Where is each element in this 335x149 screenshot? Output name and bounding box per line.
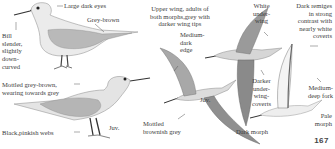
label-dark-morph: Dark morph (236, 128, 268, 136)
label-line: wing- (252, 92, 271, 100)
label-line: under- (252, 85, 271, 93)
label-juv-standing: Juv. (109, 124, 119, 132)
label-juv-flying: Juv. (200, 96, 210, 104)
label-line: wing (253, 17, 270, 25)
label-line: Medium- (308, 84, 333, 92)
label-line: Mottled grey-brown, (2, 81, 59, 89)
label-dark-remiges: Dark remiges in strong contrast with nea… (296, 2, 332, 40)
label-medium-dark-edge: Medium- dark edge (180, 31, 205, 54)
label-line: White (253, 2, 270, 10)
label-pale-morph: Pale morph (315, 112, 332, 127)
label-line: darker wing tips (150, 20, 210, 28)
label-upper-wing: Upper wing, adults of both morphs,grey w… (150, 5, 210, 28)
label-line: Pale (315, 112, 332, 120)
label-bill: Bill slender, slightly down- curved (2, 32, 22, 71)
label-darker-underwing-coverts: Darker under- wing- coverts (252, 77, 271, 107)
label-line: curved (2, 63, 22, 71)
label-black-pinkish-webs: Black,pinkish webs (2, 129, 54, 137)
label-line: Dark remiges (296, 2, 332, 10)
label-white-underwing: White under- wing (253, 2, 270, 25)
label-line: Bill (2, 32, 22, 40)
label-line: slightly (2, 47, 22, 55)
label-line: down- (2, 55, 22, 63)
label-large-dark-eyes: Large dark eyes (64, 2, 106, 10)
label-line: both morphs,grey with (150, 13, 210, 21)
label-medium-deep-fork: Medium- deep fork (308, 84, 333, 99)
label-line: Darker (252, 77, 271, 85)
label-line: dark (180, 39, 205, 47)
label-line: wearing towards grey (2, 89, 59, 97)
label-grey-brown: Grey-brown (87, 16, 119, 24)
label-line: brownish grey (143, 128, 181, 136)
label-line: coverts (296, 32, 332, 40)
label-line: Medium- (180, 31, 205, 39)
page-number: 167 (314, 136, 329, 145)
label-line: deep fork (308, 92, 333, 100)
label-line: morph (315, 120, 332, 128)
label-line: Mottled (143, 120, 181, 128)
label-line: slender, (2, 40, 22, 48)
standing-adult-bird-icon (14, 3, 138, 69)
label-line: contrast with (296, 17, 332, 25)
label-mottled-grey-brown: Mottled grey-brown, wearing towards grey (2, 81, 59, 96)
label-line: Upper wing, adults of (150, 5, 210, 13)
label-line: coverts (252, 100, 271, 108)
label-mottled-brownish-grey: Mottled brownish grey (143, 120, 181, 135)
label-line: nearly white (296, 25, 332, 33)
label-line: in strong (296, 10, 332, 18)
label-line: edge (180, 46, 205, 54)
label-line: under- (253, 10, 270, 18)
